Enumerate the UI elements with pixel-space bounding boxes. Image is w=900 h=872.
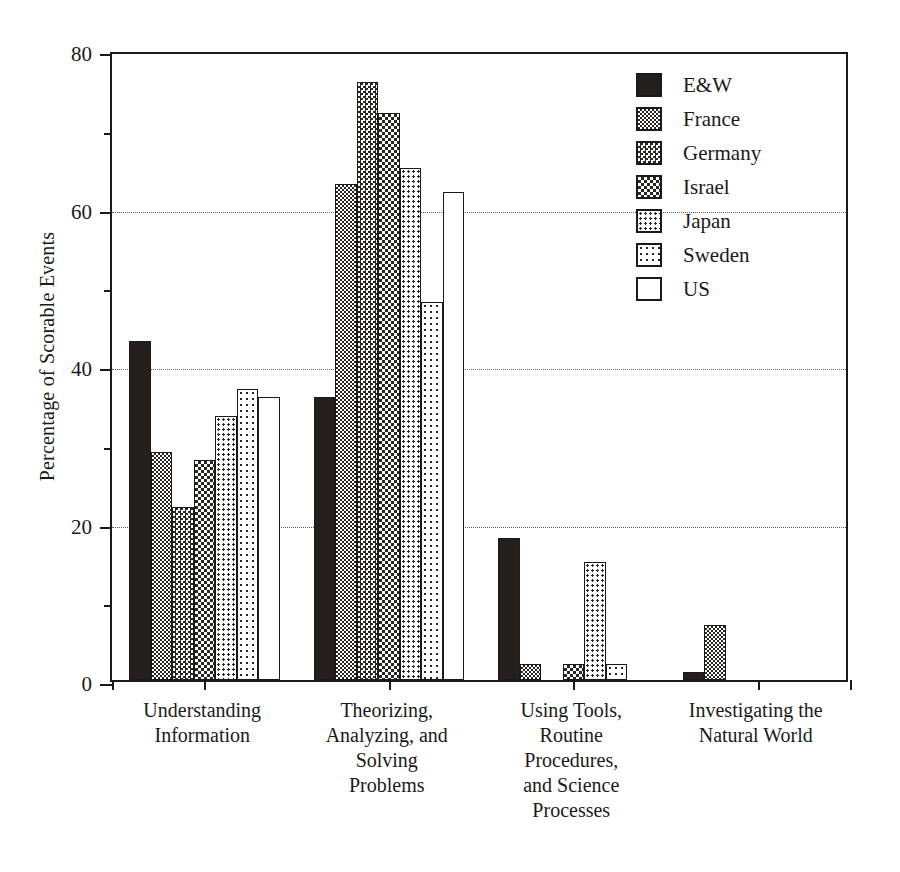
bar-germany-group-0 xyxy=(172,507,194,680)
legend-label: Japan xyxy=(683,209,731,234)
legend-label: Israel xyxy=(683,175,730,200)
x-axis-group-label-line: Investigating the xyxy=(656,698,856,723)
x-tick-end-1 xyxy=(850,680,852,690)
bar-israel-group-2 xyxy=(563,664,585,680)
bar-france-group-2 xyxy=(520,664,542,680)
bar-sweden-group-1 xyxy=(421,302,443,680)
bar-france-group-0 xyxy=(151,452,173,680)
y-tick-40: 40 xyxy=(100,369,112,371)
bar-us-group-0 xyxy=(258,397,280,681)
bar-sweden-group-2 xyxy=(606,664,628,680)
chart-figure: Percentage of Scorable Events 020406080 … xyxy=(0,0,900,872)
legend-swatch-icon xyxy=(636,175,662,199)
x-axis-group-label-line: Using Tools, xyxy=(471,698,671,723)
x-axis-group-label-line: Procedures, xyxy=(471,748,671,773)
gridline-40 xyxy=(112,369,846,370)
legend-item-germany[interactable]: Germany xyxy=(636,136,761,170)
y-tick-20: 20 xyxy=(100,527,112,529)
x-axis-group-label-line: Processes xyxy=(471,798,671,823)
bar-france-group-3 xyxy=(704,625,726,680)
x-axis-group-label-3: Investigating theNatural World xyxy=(656,698,856,748)
x-axis-group-label-line: Natural World xyxy=(656,723,856,748)
bar-us-group-1 xyxy=(443,192,465,680)
legend-swatch-icon xyxy=(636,243,662,267)
legend-swatch-icon xyxy=(636,73,662,97)
bar-israel-group-0 xyxy=(194,460,216,681)
bar-e-w-group-2 xyxy=(498,538,520,680)
bar-germany-group-1 xyxy=(357,82,379,681)
x-axis-group-label-line: Problems xyxy=(287,773,487,798)
y-tick-minor-30 xyxy=(104,448,112,450)
bar-e-w-group-3 xyxy=(683,672,705,680)
bar-israel-group-1 xyxy=(378,113,400,680)
y-axis-title: Percentage of Scorable Events xyxy=(36,147,59,567)
legend-swatch-icon xyxy=(636,107,662,131)
x-axis-group-label-line: Information xyxy=(102,723,302,748)
y-tick-minor-50 xyxy=(104,290,112,292)
x-axis-group-label-0: UnderstandingInformation xyxy=(102,698,302,748)
y-tick-label-80: 80 xyxy=(71,42,92,67)
legend-item-france[interactable]: France xyxy=(636,102,761,136)
x-axis-group-label-line: Theorizing, xyxy=(287,698,487,723)
bar-japan-group-2 xyxy=(584,562,606,680)
legend-item-us[interactable]: US xyxy=(636,272,761,306)
legend-swatch-icon xyxy=(636,209,662,233)
y-tick-80: 80 xyxy=(100,54,112,56)
legend-swatch-icon xyxy=(636,277,662,301)
y-tick-label-40: 40 xyxy=(71,357,92,382)
x-tick-0 xyxy=(204,680,206,690)
bar-sweden-group-0 xyxy=(237,389,259,680)
x-axis-group-label-line: Routine xyxy=(471,723,671,748)
y-tick-label-20: 20 xyxy=(71,515,92,540)
legend-swatch-icon xyxy=(636,141,662,165)
y-tick-minor-10 xyxy=(104,605,112,607)
x-axis-group-label-2: Using Tools,RoutineProcedures,and Scienc… xyxy=(471,698,671,823)
chart-legend: E&WFranceGermanyIsraelJapanSwedenUS xyxy=(636,68,761,306)
bar-japan-group-0 xyxy=(215,416,237,680)
legend-label: E&W xyxy=(683,73,732,98)
x-axis-group-label-line: and Science xyxy=(471,773,671,798)
legend-label: France xyxy=(683,107,740,132)
legend-label: US xyxy=(683,277,710,302)
legend-item-japan[interactable]: Japan xyxy=(636,204,761,238)
y-tick-label-0: 0 xyxy=(82,672,93,697)
y-tick-60: 60 xyxy=(100,212,112,214)
legend-item-israel[interactable]: Israel xyxy=(636,170,761,204)
y-tick-minor-70 xyxy=(104,133,112,135)
legend-item-sweden[interactable]: Sweden xyxy=(636,238,761,272)
x-tick-3 xyxy=(758,680,760,690)
x-tick-end-0 xyxy=(112,680,114,690)
bar-france-group-1 xyxy=(335,184,357,680)
legend-label: Germany xyxy=(683,141,761,166)
bar-japan-group-1 xyxy=(400,168,422,680)
x-axis-group-label-line: Understanding xyxy=(102,698,302,723)
y-tick-0: 0 xyxy=(100,684,112,686)
bar-e-w-group-1 xyxy=(314,397,336,681)
legend-label: Sweden xyxy=(683,243,750,268)
bar-e-w-group-0 xyxy=(129,341,151,680)
x-axis-group-label-line: Solving xyxy=(287,748,487,773)
x-tick-2 xyxy=(573,680,575,690)
x-axis-group-label-1: Theorizing,Analyzing, andSolvingProblems xyxy=(287,698,487,798)
y-tick-label-60: 60 xyxy=(71,200,92,225)
legend-item-e-w[interactable]: E&W xyxy=(636,68,761,102)
x-tick-1 xyxy=(389,680,391,690)
x-axis-group-label-line: Analyzing, and xyxy=(287,723,487,748)
